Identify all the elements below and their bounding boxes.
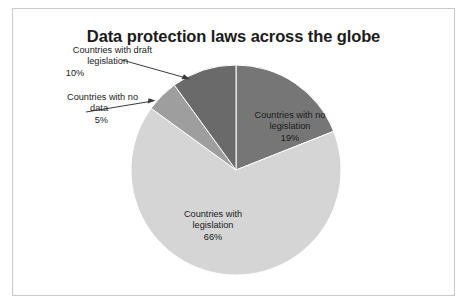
callout-no-data-line2: data bbox=[8, 103, 138, 114]
slice-label-legislation-percent: 66% bbox=[148, 232, 278, 243]
slice-label-no-legislation: Countries with no legislation 19% bbox=[230, 110, 350, 144]
callout-no-data: Countries with no data 5% bbox=[8, 92, 138, 126]
slice-label-no-legislation-line2: legislation bbox=[230, 121, 350, 132]
slice-label-no-legislation-percent: 19% bbox=[230, 133, 350, 144]
chart-screenshot: Data protection laws across the globe Co… bbox=[0, 0, 469, 307]
callout-draft-line1: Countries with draft bbox=[22, 45, 152, 56]
slice-label-legislation-line1: Countries with bbox=[148, 209, 278, 220]
slice-label-legislation-line2: legislation bbox=[148, 220, 278, 231]
callout-draft-legislation: Countries with draft legislation 10% bbox=[22, 45, 152, 79]
slice-label-legislation: Countries with legislation 66% bbox=[148, 209, 278, 243]
callout-draft-percent: 10% bbox=[22, 68, 152, 79]
callout-draft-line2: legislation bbox=[22, 56, 152, 67]
callout-no-data-line1: Countries with no bbox=[8, 92, 138, 103]
slice-label-no-legislation-line1: Countries with no bbox=[230, 110, 350, 121]
callout-no-data-percent: 5% bbox=[8, 115, 138, 126]
